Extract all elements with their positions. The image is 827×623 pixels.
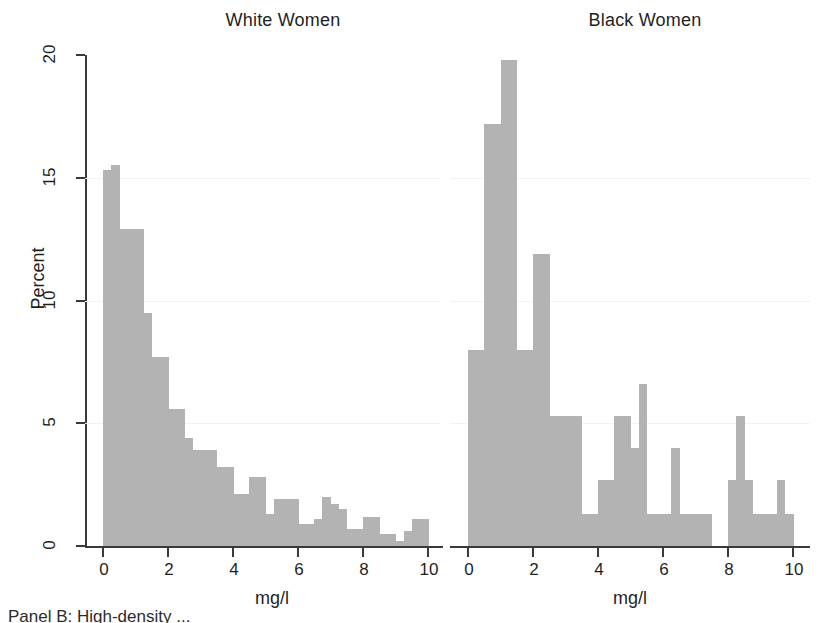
x-tick-label: 0 [449, 560, 489, 580]
x-tick-label: 4 [579, 560, 619, 580]
panel-black-women [450, 55, 810, 546]
x-tick-label: 10 [409, 560, 449, 580]
x-tick-mark [467, 548, 469, 557]
panel-title-right: Black Women [480, 10, 810, 31]
panel-title-left: White Women [118, 10, 448, 31]
y-tick-label: 20 [40, 34, 60, 74]
y-tick-mark [76, 422, 85, 424]
y-tick-label: 0 [40, 525, 60, 565]
x-tick-mark [727, 548, 729, 557]
y-axis-title: Percent [28, 219, 49, 339]
x-tick-mark [102, 548, 104, 557]
x-tick-mark [532, 548, 534, 557]
x-tick-label: 4 [214, 560, 254, 580]
y-tick-label: 10 [40, 280, 60, 320]
x-tick-label: 8 [344, 560, 384, 580]
x-axis-title-left: mg/l [172, 588, 372, 609]
x-tick-mark [167, 548, 169, 557]
x-tick-label: 2 [149, 560, 189, 580]
x-tick-mark [597, 548, 599, 557]
x-tick-mark [427, 548, 429, 557]
y-tick-mark [76, 177, 85, 179]
figure-container: White Women Black Women Percent 05101520… [0, 0, 827, 623]
x-tick-mark [232, 548, 234, 557]
y-tick-label: 5 [40, 402, 60, 442]
x-tick-label: 6 [644, 560, 684, 580]
x-tick-mark [662, 548, 664, 557]
x-tick-label: 10 [774, 560, 814, 580]
y-tick-mark [76, 54, 85, 56]
grid-line [85, 178, 440, 179]
histogram-bar [785, 514, 794, 546]
x-tick-mark [792, 548, 794, 557]
histogram-bar [704, 514, 713, 546]
y-tick-mark [76, 545, 85, 547]
x-tick-label: 2 [514, 560, 554, 580]
y-tick-label: 15 [40, 157, 60, 197]
plot-area-right [450, 55, 810, 546]
x-axis-line-right [450, 546, 810, 548]
x-axis-title-right: mg/l [530, 588, 730, 609]
plot-area-left [85, 55, 440, 546]
x-tick-label: 0 [84, 560, 124, 580]
panel-white-women [85, 55, 440, 546]
histogram-bar [420, 519, 429, 546]
x-tick-mark [362, 548, 364, 557]
x-tick-mark [297, 548, 299, 557]
x-tick-label: 8 [709, 560, 749, 580]
y-tick-mark [76, 300, 85, 302]
x-tick-label: 6 [279, 560, 319, 580]
figure-caption: Panel B: High-density ... [8, 607, 190, 623]
x-axis-line-left [85, 546, 443, 548]
